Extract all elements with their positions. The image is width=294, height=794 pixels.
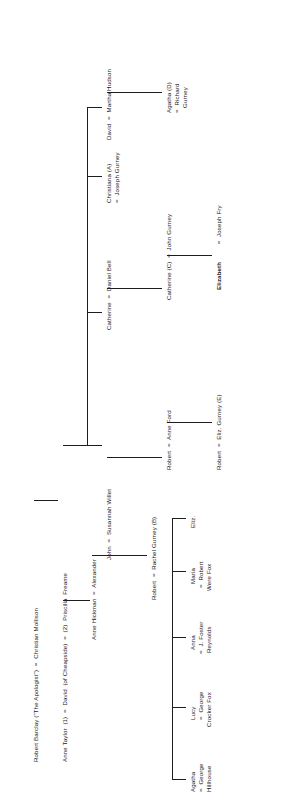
person-label-gurney: Gurney [181,87,188,108]
person-label-j-foster-eq: = J. Foster [197,622,204,654]
person-label-christiana-a: Christiana (A) [105,164,112,203]
sibling-spine-freame-children [87,107,88,446]
person-label-joseph-gurney: = Joseph Gurney [113,152,120,203]
person-label-were-fox: Were Fox [205,564,212,592]
person-label-agatha-d: Agatha (D) [165,82,172,113]
connector-spine-to-lucy [172,707,186,708]
connector-spine-to-christiana [87,176,102,177]
person-label-eliz: Eliz. [189,516,196,528]
person-label-david-martha-hudson: David = Martha Hudson [105,69,112,140]
person-label-catherine-daniel-bell: Catherine = Daniel Bell [105,260,112,330]
person-label-david-of-cheapside: Anne Taylor (1) = David (of Cheapside) =… [61,573,68,762]
connector-spine-to-john [87,445,102,446]
person-label-robert-anne-ford: Robert = Anne Ford [165,410,172,470]
connector-john-to-robert [107,457,162,458]
person-label-elizabeth-fry: Elizabeth [215,262,222,290]
person-label-agatha: Agatha [189,772,196,792]
connector-spine-to-david [87,107,102,108]
connector-spine-to-catherine [87,312,102,313]
person-label-lucy: Lucy [189,707,196,720]
person-label-maria: Maria [189,568,196,584]
person-label-robert-were-fox-eq: = Robert [197,561,204,588]
connector-spine-to-agatha [172,779,186,780]
person-label-joseph-fry: = Joseph Fry [215,205,222,248]
person-label-richard: = Richard [173,84,180,113]
connector-spine-to-anna [172,637,186,638]
person-label-george-hillhouse-eq: = George [197,763,204,792]
connector-spine-to-maria [172,571,186,572]
family-tree-chart: Robert Barclay ("The Apologist") = Chris… [0,0,294,794]
connector-catherine-c-to-elizabeth-fry [167,255,212,256]
person-label-catherine-c-john-gurney: Catherine (C) = John Gurney [165,214,172,300]
person-label-crocker-fox: Crocker Fox [205,692,212,727]
sibling-spine-rachel-children [172,518,173,780]
connector-david-to-agatha-d [107,92,162,93]
person-label-anne-hickman-alexander: Anne Hickman = Alexander [90,559,97,640]
person-label-robert-barclay-apologist: Robert Barclay ("The Apologist") = Chris… [32,608,39,762]
person-label-anna: Anna [189,635,196,650]
person-label-hillhouse: Hillhouse [205,766,212,792]
person-label-robert-eliz-gurney-e: Robert = Eliz. Gurney (E) [215,394,222,470]
connector-robert-to-robert-eliz-gurney [167,422,212,423]
person-label-john-susannah-willet: John = Susannah Willet [105,489,112,560]
connector-gen1-to-gen2 [34,500,58,501]
person-label-george-crocker-fox-eq: = George [197,691,204,720]
person-label-robert-rachel-gurney: Robert = Rachel Gurney (B) [150,517,157,600]
connector-spine-to-eliz [172,518,186,519]
connector-catherine-to-catherine-c [107,288,162,289]
connector-anne-taylor-marriage [63,600,90,601]
connector-alexander-to-robert [92,555,147,556]
connector-priscilla-freame-marriage [63,445,87,446]
person-label-reynolds: Reynolds [205,626,212,653]
